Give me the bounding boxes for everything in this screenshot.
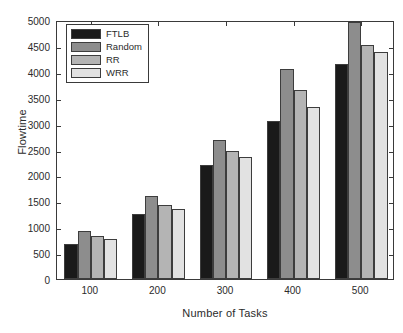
bar-rr-200 <box>158 205 171 279</box>
bar-wrr-100 <box>104 239 117 279</box>
legend-swatch-wrr <box>71 68 101 78</box>
y-axis-tick-label: 0 <box>4 275 50 286</box>
y-axis-tick-mark <box>57 177 61 178</box>
bar-random-200 <box>145 196 158 279</box>
y-axis-tick-mark <box>57 203 61 204</box>
bar-wrr-300 <box>239 157 252 279</box>
y-axis-tick-mark-right <box>389 255 393 256</box>
y-axis-tick-label: 2000 <box>4 171 50 182</box>
legend-swatch-ftlb <box>71 29 101 39</box>
legend-item-random: Random <box>71 41 144 53</box>
y-axis-tick-mark <box>57 126 61 127</box>
bar-ftlb-500 <box>335 64 348 279</box>
bar-ftlb-200 <box>132 214 145 279</box>
legend-label: Random <box>106 42 142 52</box>
bar-random-400 <box>280 69 293 279</box>
bar-rr-400 <box>294 90 307 279</box>
y-axis-tick-mark-right <box>389 177 393 178</box>
legend-swatch-rr <box>71 55 101 65</box>
bar-ftlb-300 <box>200 165 213 279</box>
y-axis-tick-mark-right <box>389 126 393 127</box>
bar-rr-100 <box>91 236 104 279</box>
y-axis-tick-label: 3500 <box>4 93 50 104</box>
y-axis-tick-label: 5000 <box>4 16 50 27</box>
x-axis-title: Number of Tasks <box>56 307 394 319</box>
x-axis-tick-label: 200 <box>127 285 187 296</box>
y-axis-tick-mark <box>57 74 61 75</box>
x-axis-tick-mark-top <box>361 22 362 26</box>
y-axis-tick-mark-right <box>389 152 393 153</box>
legend-item-ftlb: FTLB <box>71 28 144 40</box>
bar-random-300 <box>213 140 226 279</box>
x-axis-tick-mark-top <box>158 22 159 26</box>
x-axis-tick-mark-top <box>226 22 227 26</box>
legend-item-wrr: WRR <box>71 67 144 79</box>
legend-item-rr: RR <box>71 54 144 66</box>
y-axis-tick-label: 1000 <box>4 223 50 234</box>
bar-random-100 <box>78 231 91 279</box>
y-axis-tick-mark-right <box>389 74 393 75</box>
y-axis-tick-mark-right <box>389 203 393 204</box>
y-axis-tick-mark-right <box>389 229 393 230</box>
y-axis-tick-mark <box>57 152 61 153</box>
y-axis-tick-mark-right <box>389 48 393 49</box>
y-axis-tick-mark <box>57 255 61 256</box>
y-axis-tick-label: 4500 <box>4 41 50 52</box>
bar-ftlb-400 <box>267 121 280 280</box>
chart-legend: FTLBRandomRRWRR <box>66 24 149 83</box>
y-axis-tick-label: 3000 <box>4 119 50 130</box>
y-axis-tick-label: 500 <box>4 249 50 260</box>
y-axis-tick-label: 1500 <box>4 197 50 208</box>
y-axis-tick-mark <box>57 48 61 49</box>
x-axis-tick-label: 100 <box>60 285 120 296</box>
y-axis-tick-mark-right <box>389 100 393 101</box>
legend-label: RR <box>106 55 120 65</box>
x-axis-tick-label: 300 <box>195 285 255 296</box>
y-axis-tick-label: 2500 <box>4 145 50 156</box>
bar-wrr-500 <box>374 52 387 279</box>
legend-label: WRR <box>106 68 129 78</box>
bar-ftlb-100 <box>64 244 77 279</box>
bar-wrr-400 <box>307 107 320 279</box>
y-axis-tick-mark <box>57 100 61 101</box>
x-axis-tick-label: 500 <box>330 285 390 296</box>
bar-rr-300 <box>226 151 239 279</box>
legend-swatch-random <box>71 42 101 52</box>
x-axis-tick-label: 400 <box>263 285 323 296</box>
bar-chart-figure: Flowtime Number of Tasks 050010001500200… <box>0 0 403 333</box>
legend-label: FTLB <box>106 29 129 39</box>
y-axis-tick-mark <box>57 229 61 230</box>
y-axis-tick-label: 4000 <box>4 67 50 78</box>
x-axis-tick-mark-top <box>294 22 295 26</box>
bar-random-500 <box>348 22 361 279</box>
bar-wrr-200 <box>172 209 185 279</box>
bar-rr-500 <box>361 45 374 279</box>
